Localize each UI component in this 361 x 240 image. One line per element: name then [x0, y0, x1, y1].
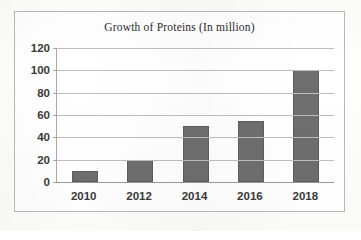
gridline-0	[57, 182, 334, 183]
gridline-60	[57, 115, 334, 116]
gridline-80	[57, 93, 334, 94]
y-tick-mark-60	[53, 115, 57, 116]
x-axis-label-2010: 2010	[71, 190, 97, 202]
x-axis-label-2016: 2016	[237, 190, 263, 202]
y-axis-label-120: 120	[31, 42, 50, 54]
bar-2010	[72, 171, 98, 182]
y-axis-label-0: 0	[44, 176, 50, 188]
bar-2012	[127, 160, 153, 182]
y-axis-label-40: 40	[37, 131, 50, 143]
y-axis-label-20: 20	[37, 154, 50, 166]
bar-2018	[293, 70, 319, 182]
plot-area: 020406080100120	[56, 48, 334, 182]
gridline-40	[57, 137, 334, 138]
gridline-20	[57, 160, 334, 161]
x-axis-label-2018: 2018	[293, 190, 319, 202]
x-axis-label-2012: 2012	[126, 190, 152, 202]
y-axis-label-80: 80	[37, 87, 50, 99]
chart-title: Growth of Proteins (In million)	[15, 21, 344, 33]
y-tick-mark-0	[53, 182, 57, 183]
y-tick-mark-100	[53, 70, 57, 71]
y-tick-mark-40	[53, 137, 57, 138]
bar-2016	[238, 121, 264, 182]
y-tick-mark-20	[53, 160, 57, 161]
y-tick-mark-120	[53, 48, 57, 49]
x-axis-label-2014: 2014	[182, 190, 208, 202]
y-tick-mark-80	[53, 93, 57, 94]
gridline-100	[57, 70, 334, 71]
bar-2014	[183, 126, 209, 182]
gridline-120	[57, 48, 334, 49]
y-axis-label-100: 100	[31, 64, 50, 76]
y-axis-label-60: 60	[37, 109, 50, 121]
